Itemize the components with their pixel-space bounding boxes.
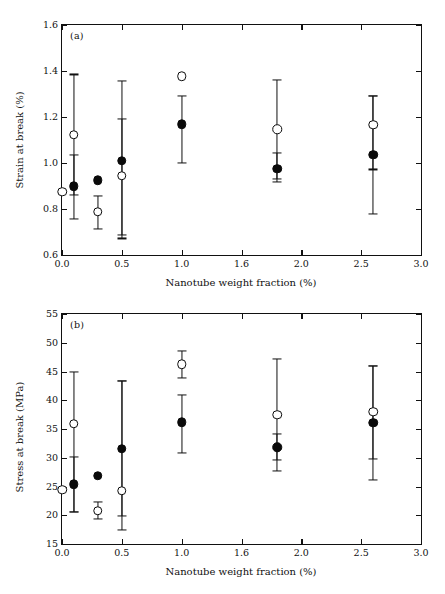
data-point-open <box>57 187 67 197</box>
plot-frame-a: (a) 0.60.81.01.21.41.60.00.51.01.62.02.5… <box>61 24 422 256</box>
x-tick <box>361 539 362 544</box>
data-point-open <box>177 71 187 81</box>
x-tick <box>361 250 362 255</box>
plot-frame-b: (b) 1520253035404550550.00.51.01.62.02.5… <box>61 313 422 545</box>
x-tick <box>421 539 422 544</box>
y-tick-right <box>416 209 421 210</box>
error-bar-cap-upper <box>177 394 186 395</box>
x-tick-label: 1.0 <box>174 259 189 269</box>
error-bar-cap-upper <box>273 153 282 154</box>
data-point-filled <box>69 479 79 489</box>
figure-container: (a) 0.60.81.01.21.41.60.00.51.01.62.02.5… <box>0 0 445 594</box>
y-tick-label: 1.2 <box>43 112 58 122</box>
error-bar-cap-lower <box>117 234 126 235</box>
x-tick-label: 1.0 <box>174 548 189 558</box>
error-bar-cap-upper <box>177 350 186 351</box>
data-point-open <box>177 359 187 369</box>
error-bar-cap-upper <box>69 74 78 75</box>
error-bar <box>73 74 74 219</box>
y-tick <box>62 255 67 256</box>
error-bar-cap-lower <box>117 529 126 530</box>
x-tick <box>242 539 243 544</box>
data-point-filled <box>273 164 283 174</box>
data-point-filled <box>117 444 127 454</box>
data-point-filled <box>177 120 187 130</box>
data-point-open <box>93 207 103 217</box>
x-tick-label: 0.0 <box>54 548 69 558</box>
data-point-filled <box>273 443 283 453</box>
y-tick-label: 25 <box>46 482 58 492</box>
x-axis-title-b: Nanotube weight fraction (%) <box>165 566 316 577</box>
error-bar-cap-upper <box>69 154 78 155</box>
x-tick-top <box>62 25 63 30</box>
error-bar-cap-lower <box>117 515 126 516</box>
error-bar-cap-lower <box>93 229 102 230</box>
y-tick-label: 20 <box>46 511 58 521</box>
error-bar-cap-upper <box>273 358 282 359</box>
y-tick-right <box>416 544 421 545</box>
y-tick-right <box>416 515 421 516</box>
x-tick <box>122 250 123 255</box>
x-tick-label: 1.6 <box>234 548 249 558</box>
error-bar-cap-lower <box>117 238 126 239</box>
y-tick <box>62 163 67 164</box>
y-tick-label: 30 <box>46 453 58 463</box>
x-axis-title-a: Nanotube weight fraction (%) <box>165 277 316 288</box>
x-tick-label: 3.0 <box>413 548 428 558</box>
x-tick <box>182 539 183 544</box>
x-tick <box>301 539 302 544</box>
x-tick-top <box>62 314 63 319</box>
y-tick <box>62 372 67 373</box>
x-tick <box>301 250 302 255</box>
error-bar-cap-lower <box>93 519 102 520</box>
error-bar-cap-upper <box>69 456 78 457</box>
x-tick-top <box>361 314 362 319</box>
y-tick <box>62 343 67 344</box>
x-tick-top <box>301 314 302 319</box>
error-bar-cap-lower <box>69 194 78 195</box>
x-tick <box>62 250 63 255</box>
error-bar-cap-lower <box>177 377 186 378</box>
data-point-open <box>57 485 67 495</box>
panel-b: (b) 1520253035404550550.00.51.01.62.02.5… <box>0 297 445 594</box>
x-tick-label: 1.6 <box>234 259 249 269</box>
y-axis-title-a: Strain at break (%) <box>14 91 25 188</box>
data-point-filled <box>93 471 103 481</box>
error-bar-cap-lower <box>273 181 282 182</box>
data-point-filled <box>177 417 187 427</box>
y-tick-label: 50 <box>46 338 58 348</box>
y-tick <box>62 458 67 459</box>
error-bar-cap-lower <box>69 219 78 220</box>
y-tick-label: 35 <box>46 424 58 434</box>
y-tick <box>62 71 67 72</box>
y-tick-label: 1.6 <box>43 20 58 30</box>
x-tick-label: 2.5 <box>354 548 369 558</box>
data-point-open <box>273 410 283 420</box>
error-bar-cap-upper <box>93 501 102 502</box>
x-tick <box>182 250 183 255</box>
x-tick-top <box>122 314 123 319</box>
data-point-open <box>117 171 127 181</box>
error-bar-cap-upper <box>69 371 78 372</box>
x-tick-label: 2.0 <box>294 548 309 558</box>
y-tick-right <box>416 458 421 459</box>
error-bar-cap-lower <box>369 480 378 481</box>
x-tick <box>62 539 63 544</box>
x-tick-label: 2.5 <box>354 259 369 269</box>
y-tick-label: 0.8 <box>43 204 58 214</box>
y-tick-right <box>416 163 421 164</box>
data-point-open <box>117 486 127 496</box>
error-bar-cap-upper <box>93 195 102 196</box>
y-tick-label: 1.4 <box>43 66 58 76</box>
x-tick-top <box>301 25 302 30</box>
x-tick-label: 0.5 <box>114 259 129 269</box>
y-tick-right <box>416 343 421 344</box>
y-tick-label: 55 <box>46 309 58 319</box>
x-tick-top <box>122 25 123 30</box>
y-tick-right <box>416 71 421 72</box>
data-point-filled <box>69 182 79 192</box>
y-tick <box>62 515 67 516</box>
data-point-filled <box>117 156 127 166</box>
error-bar-cap-upper <box>369 96 378 97</box>
error-bar-cap-lower <box>69 511 78 512</box>
